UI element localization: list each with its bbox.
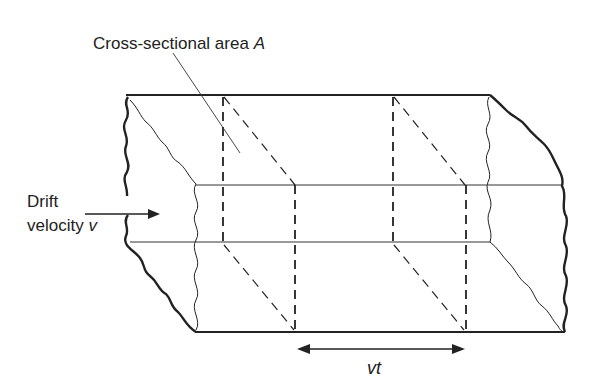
right-jagged-edge bbox=[490, 95, 567, 332]
right-wavy-section bbox=[486, 97, 565, 332]
conductor-diagram: Cross-sectional area A Drift velocity v … bbox=[0, 0, 598, 391]
arrowhead-icon bbox=[148, 209, 160, 219]
arrowhead-left-icon bbox=[297, 344, 310, 354]
distance-label: vt bbox=[367, 358, 382, 378]
arrowhead-right-icon bbox=[452, 344, 465, 354]
left-wavy-section bbox=[130, 100, 198, 330]
distance-arrow bbox=[297, 344, 465, 354]
conductor-outline bbox=[124, 95, 567, 332]
volume-box-left bbox=[223, 97, 295, 332]
area-leader-line bbox=[173, 53, 240, 153]
drift-label-line2: velocity v bbox=[27, 216, 98, 235]
drift-label-line1: Drift bbox=[27, 192, 58, 211]
volume-box-right bbox=[393, 97, 466, 332]
area-label: Cross-sectional area A bbox=[93, 34, 265, 53]
